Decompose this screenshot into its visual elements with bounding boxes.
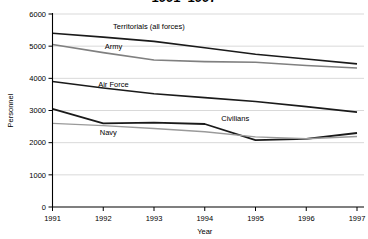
x-tick-label: 1991 <box>44 214 61 223</box>
y-tick-label: 2000 <box>29 138 46 147</box>
series-line <box>53 123 358 138</box>
chart-plot-area: 0100020003000400050006000199119921993199… <box>0 0 368 239</box>
x-tick-label: 1994 <box>196 214 213 223</box>
personnel-line-chart: 1991–1997 010002000300040005000600019911… <box>0 0 368 239</box>
axes-group <box>49 13 365 211</box>
series-inline-label: Territorials (all forces) <box>113 22 185 31</box>
y-tick-label: 6000 <box>29 10 46 19</box>
series-line <box>53 33 358 64</box>
gridlines-group <box>53 14 365 175</box>
x-tick-label: 1992 <box>95 214 112 223</box>
series-inline-label: Air Force <box>98 80 128 89</box>
y-axis-title: Personnel <box>6 93 15 127</box>
series-inline-label: Civilians <box>221 114 249 123</box>
x-axis-title: Year <box>197 227 213 236</box>
x-tick-label: 1996 <box>298 214 315 223</box>
x-tick-label: 1995 <box>247 214 264 223</box>
series-inline-label: Army <box>105 42 123 51</box>
y-tick-label: 0 <box>42 203 46 212</box>
y-tick-label: 5000 <box>29 42 46 51</box>
y-tick-label: 4000 <box>29 74 46 83</box>
series-inline-label: Navy <box>100 128 117 137</box>
y-tick-label: 3000 <box>29 106 46 115</box>
series-line <box>53 109 358 140</box>
x-tick-label: 1993 <box>146 214 163 223</box>
x-tick-label: 1997 <box>349 214 366 223</box>
y-tick-label: 1000 <box>29 171 46 180</box>
